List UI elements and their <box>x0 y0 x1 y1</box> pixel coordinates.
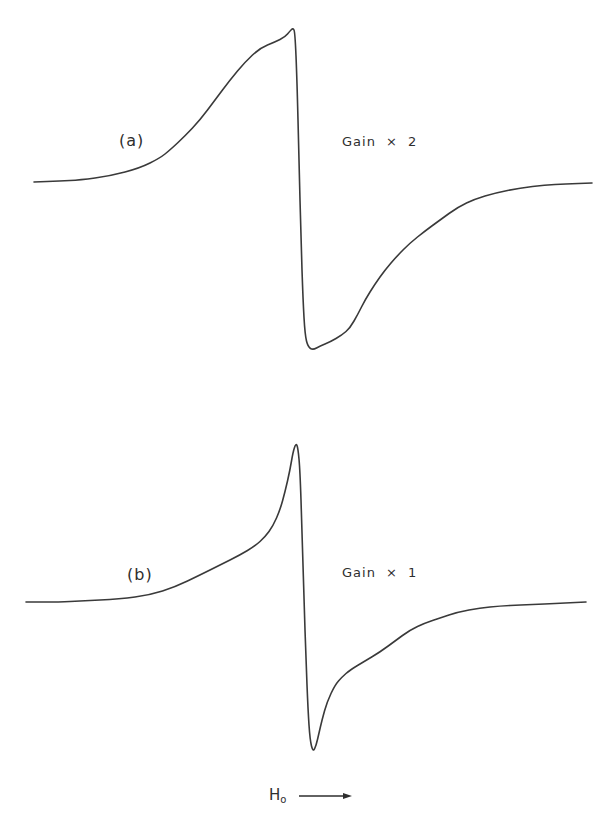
field-direction-arrow-icon <box>299 793 352 799</box>
spectrum-trace-a <box>34 29 592 349</box>
gain-annotation-a: Gain × 2 <box>342 135 417 148</box>
magnetic-field-axis-label: Ho <box>269 788 286 805</box>
panel-label-b: (b) <box>127 567 153 583</box>
spectra-plot-area <box>0 0 603 822</box>
axis-label-subscript: o <box>280 794 286 805</box>
panel-label-a: (a) <box>119 133 144 149</box>
esr-spectra-figure: (a) Gain × 2 (b) Gain × 1 Ho <box>0 0 603 822</box>
gain-annotation-b: Gain × 1 <box>342 566 417 579</box>
axis-label-main: H <box>269 786 280 804</box>
spectrum-trace-b <box>26 445 586 750</box>
